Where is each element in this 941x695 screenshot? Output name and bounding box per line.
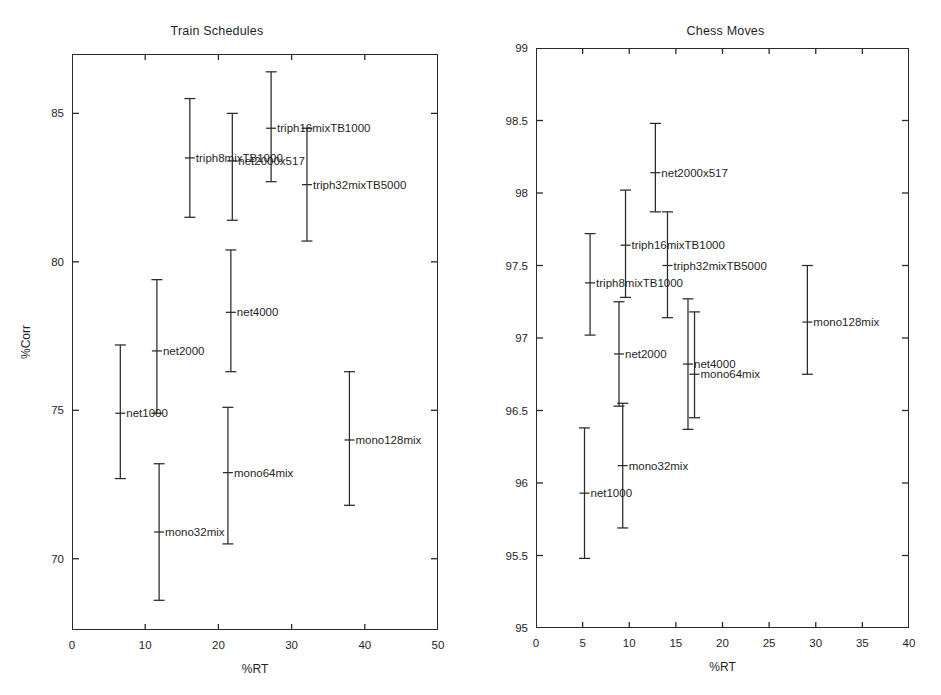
y-tick-label: 95.5 [506, 550, 536, 562]
x-tick-label: 40 [358, 639, 371, 651]
y-tick-label: 80 [51, 256, 72, 268]
x-axis-title-train-schedules: %RT [242, 662, 268, 676]
error-bar-mono64mix [222, 407, 233, 544]
plot-marks-chess-moves [470, 0, 941, 695]
y-tick-label: 98 [515, 187, 536, 199]
x-tick-label: 5 [579, 637, 585, 649]
error-bar-triph32mixTB5000 [301, 128, 312, 241]
y-tick-label: 97 [515, 332, 536, 344]
error-bar-net2000x517 [227, 113, 238, 220]
error-bar-net2000 [613, 302, 624, 406]
error-bar-mono64mix [689, 312, 700, 418]
x-tick-label: 0 [69, 639, 75, 651]
y-tick-label: 70 [51, 553, 72, 565]
error-bar-triph16mixTB1000 [266, 72, 277, 182]
x-tick-label: 20 [716, 637, 729, 649]
y-tick-label: 85 [51, 107, 72, 119]
error-bar-triph32mixTB5000 [662, 212, 673, 318]
x-tick-label: 10 [623, 637, 636, 649]
error-bar-triph16mixTB1000 [620, 190, 631, 297]
y-tick-label: 97.5 [506, 260, 536, 272]
y-tick-label: 96.5 [506, 405, 536, 417]
y-tick-label: 98.5 [506, 115, 536, 127]
x-tick-label: 40 [903, 637, 916, 649]
x-tick-label: 30 [285, 639, 298, 651]
error-bar-mono128mix [802, 266, 813, 375]
error-bar-mono32mix [617, 403, 628, 528]
y-tick-label: 95 [515, 622, 536, 634]
y-tick-label: 99 [515, 42, 536, 54]
y-axis-title-train-schedules: %Corr [19, 325, 33, 359]
error-bar-net2000x517 [650, 123, 661, 211]
x-tick-label: 50 [432, 639, 445, 651]
x-tick-label: 30 [809, 637, 822, 649]
figure-canvas: Train Schedules 0102030405070758085net10… [0, 0, 941, 695]
error-bar-triph8mixTB1000 [184, 99, 195, 218]
x-tick-label: 35 [856, 637, 869, 649]
error-bar-triph8mixTB1000 [585, 234, 596, 336]
error-bar-net2000 [151, 280, 162, 414]
chart-panel-chess-moves: Chess Moves 05101520253035409595.59696.5… [470, 0, 941, 695]
error-bar-net1000 [115, 345, 126, 479]
x-tick-label: 0 [533, 637, 539, 649]
x-tick-label: 15 [669, 637, 682, 649]
error-bar-net1000 [579, 428, 590, 559]
x-axis-title-chess-moves: %RT [709, 660, 735, 674]
error-bar-net4000 [225, 250, 236, 372]
error-bar-mono32mix [154, 464, 165, 601]
y-tick-label: 96 [515, 477, 536, 489]
error-bar-net4000 [682, 299, 693, 430]
x-tick-label: 20 [212, 639, 225, 651]
x-tick-label: 10 [139, 639, 152, 651]
error-bar-mono128mix [344, 372, 355, 506]
chart-panel-train-schedules: Train Schedules 0102030405070758085net10… [0, 0, 470, 695]
y-tick-label: 75 [51, 404, 72, 416]
x-tick-label: 25 [763, 637, 776, 649]
